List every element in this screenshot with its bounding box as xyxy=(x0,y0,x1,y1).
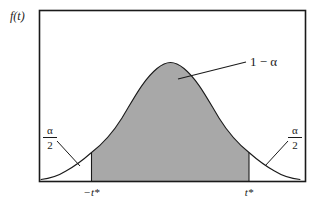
x-tick-label-t-star: t* xyxy=(245,186,254,198)
x-tick-label-negative-t-star: −t* xyxy=(84,186,100,198)
right-tail-denominator: 2 xyxy=(292,139,298,151)
left-tail-numerator: α xyxy=(47,124,53,136)
confidence-level-label: 1 − α xyxy=(250,54,277,69)
confidence-interval-figure: f(t) 1 − α α 2 α 2 −t* t* xyxy=(0,0,323,214)
right-tail-numerator: α xyxy=(292,124,298,136)
density-plot-svg: f(t) 1 − α α 2 α 2 −t* t* xyxy=(0,0,323,214)
y-axis-label: f(t) xyxy=(10,9,25,23)
left-tail-denominator: 2 xyxy=(47,139,53,151)
